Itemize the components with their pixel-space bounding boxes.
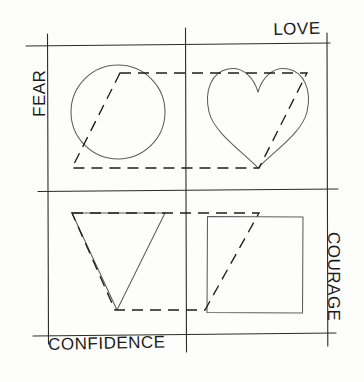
axis-label-love: LOVE [273,19,321,40]
grid-line-middle-vertical [186,28,187,352]
grid-line-middle-horizontal [38,189,338,192]
dashed-parallelogram-lower [72,213,259,310]
dashed-overlay-group [72,73,307,310]
diagram-canvas [0,0,364,382]
axis-label-confidence-text: CONFIDENCE [48,333,166,355]
shape-triangle [72,213,165,310]
shape-heart [208,69,309,168]
axis-label-love-text: LOVE [273,19,321,40]
axis-label-confidence: CONFIDENCE [48,333,166,355]
axis-grid-group [26,28,338,352]
shape-square [207,217,303,314]
axis-label-fear-text: FEAR [30,70,50,117]
axis-line-top [26,43,330,46]
dashed-parallelogram-upper [72,73,307,168]
axis-label-fear: FEAR [30,70,50,117]
axis-label-courage-text: COURAGE [323,232,343,321]
shape-circle [71,65,165,159]
axis-label-courage: COURAGE [323,232,343,321]
emotion-axis-diagram: FEAR LOVE CONFIDENCE COURAGE [0,0,364,382]
